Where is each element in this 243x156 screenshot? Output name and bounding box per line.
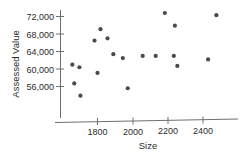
x-tick-labels: 1800 2000 2200 2400 — [87, 126, 213, 138]
data-point — [105, 36, 109, 40]
y-tick-label: 64,000 — [26, 47, 54, 57]
x-tick-label: 2400 — [193, 126, 213, 136]
chart-canvas: 72,000 68,000 64,000 60,000 56,000 1800 … — [0, 0, 243, 156]
data-point — [121, 56, 125, 60]
x-tick-label: 2200 — [158, 126, 178, 136]
y-tick-label: 72,000 — [26, 12, 54, 22]
data-point — [163, 11, 167, 15]
x-axis-line — [55, 119, 238, 123]
data-point — [206, 57, 210, 61]
data-point — [95, 71, 99, 75]
y-tick-label: 60,000 — [26, 65, 54, 75]
data-point — [154, 54, 158, 58]
data-point — [126, 86, 130, 90]
data-point — [175, 64, 179, 68]
y-tick-labels: 72,000 68,000 64,000 60,000 56,000 — [26, 12, 54, 92]
x-axis-title: Size — [139, 140, 157, 151]
y-axis-title: Assessed Value — [10, 30, 21, 97]
data-point — [78, 94, 82, 98]
scatter-plot-figure: 72,000 68,000 64,000 60,000 56,000 1800 … — [0, 0, 243, 156]
data-point — [98, 27, 102, 31]
x-tick-label: 2000 — [123, 127, 143, 137]
y-tick-label: 68,000 — [26, 30, 54, 40]
y-tick-label: 56,000 — [26, 82, 54, 92]
data-point — [173, 24, 177, 28]
data-point — [77, 65, 81, 69]
data-point — [72, 81, 76, 85]
data-point — [172, 54, 176, 58]
data-points-layer — [70, 11, 218, 98]
data-point — [141, 54, 145, 58]
data-point — [92, 38, 96, 42]
x-tick-label: 1800 — [87, 127, 107, 137]
data-point — [70, 63, 74, 67]
data-point — [111, 52, 115, 56]
data-point — [214, 13, 218, 17]
